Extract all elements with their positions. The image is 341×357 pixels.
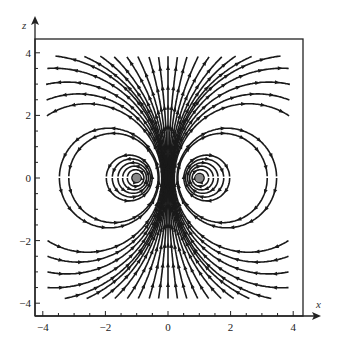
arrow-icon — [59, 285, 64, 289]
source-point — [133, 174, 141, 182]
arrow-icon — [206, 199, 211, 203]
arrow-icon — [217, 220, 222, 224]
arrow-icon — [114, 220, 119, 224]
field-lines — [46, 56, 290, 298]
arrow-icon — [278, 66, 283, 70]
arrow-icon — [169, 105, 173, 110]
arrow-icon — [272, 272, 277, 276]
z-tick-label: 0 — [26, 172, 32, 184]
arrow-icon — [96, 275, 102, 281]
arrow-icon — [221, 126, 226, 130]
arrow-icon — [215, 249, 221, 255]
x-tick-label: 2 — [228, 321, 234, 333]
x-tick-label: −4 — [37, 321, 49, 333]
arrow-icon — [102, 225, 107, 229]
arrow-icon — [233, 275, 239, 281]
streamline-plot: xz−4−2024−4−2024 — [0, 0, 341, 357]
x-axis-label: x — [315, 298, 321, 310]
arrow-icon — [53, 66, 58, 70]
arrow-icon — [166, 65, 170, 70]
field-line — [47, 94, 163, 262]
arrow-icon — [221, 131, 226, 135]
arrow-icon — [169, 243, 173, 248]
arrow-icon — [189, 283, 195, 289]
arrow-icon — [229, 225, 234, 229]
arrow-icon — [114, 243, 120, 249]
arrow-icon — [241, 63, 247, 69]
z-tick-label: −4 — [19, 297, 31, 309]
z-tick-label: 2 — [26, 109, 32, 121]
arrow-icon — [275, 80, 280, 84]
arrow-icon — [171, 85, 176, 90]
field-line — [174, 94, 290, 262]
arrow-icon — [166, 104, 170, 109]
arrow-icon — [110, 131, 115, 135]
arrow-icon — [166, 282, 170, 287]
arrow-icon — [215, 243, 221, 249]
x-tick-label: −2 — [100, 321, 112, 333]
arrow-icon — [161, 262, 166, 267]
arrow-icon — [241, 102, 246, 106]
arrow-icon — [189, 266, 195, 272]
z-tick-label: −2 — [19, 235, 31, 247]
arrow-icon — [78, 260, 83, 264]
arrow-icon — [162, 105, 166, 110]
arrow-icon — [143, 71, 149, 77]
arrow-icon — [253, 260, 258, 264]
arrow-icon — [166, 243, 170, 248]
x-tick-label: 0 — [165, 321, 171, 333]
arrow-icon — [250, 92, 255, 96]
arrow-icon — [90, 102, 95, 106]
source-point — [195, 174, 203, 182]
z-tick-label: 4 — [26, 47, 32, 59]
arrow-icon — [160, 85, 165, 90]
arrow-icon — [81, 92, 86, 96]
arrow-icon — [166, 85, 170, 90]
arrow-icon — [184, 94, 190, 100]
arrow-icon — [115, 249, 121, 255]
arrow-icon — [171, 262, 176, 267]
z-axis-label: z — [21, 19, 27, 31]
arrow-icon — [255, 80, 260, 85]
arrow-icon — [141, 283, 147, 289]
arrow-icon — [147, 94, 153, 100]
arrow-icon — [59, 272, 64, 276]
arrow-icon — [166, 262, 170, 267]
arrow-icon — [76, 250, 81, 254]
arrow-icon — [272, 285, 277, 289]
arrow-icon — [142, 266, 148, 272]
arrow-icon — [110, 126, 115, 130]
arrow-icon — [76, 80, 81, 85]
arrow-icon — [187, 71, 193, 77]
arrow-icon — [89, 63, 95, 69]
x-tick-label: 4 — [290, 321, 296, 333]
arrow-icon — [56, 80, 61, 84]
arrow-icon — [124, 199, 129, 203]
arrow-icon — [254, 250, 259, 254]
